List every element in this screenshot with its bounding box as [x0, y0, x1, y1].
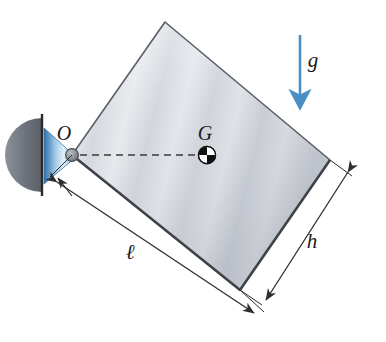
ext-line-bottom-h	[240, 290, 262, 305]
pivot-label: O	[57, 122, 71, 144]
length-label: ℓ	[126, 240, 135, 264]
gravity-label: g	[308, 48, 319, 72]
ext-line-right	[330, 160, 352, 176]
figure-canvas: ℓ h O G g	[0, 0, 386, 342]
wall-bracket-semicircle	[5, 118, 42, 192]
height-label: h	[307, 229, 318, 253]
center-of-mass-label: G	[198, 122, 213, 144]
ext-line-bottom	[240, 290, 264, 312]
physics-figure: ℓ h O G g	[0, 0, 386, 342]
center-of-mass-marker	[198, 146, 215, 163]
